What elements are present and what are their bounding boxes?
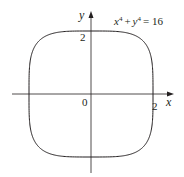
x-tick-label: 2 [152,100,158,112]
plot: y x 0 2 2 x4+y4= 16 [0,0,184,177]
equation-label: x4+y4= 16 [113,15,163,27]
origin-label: 0 [82,96,88,108]
y-tick-label: 2 [80,31,86,43]
y-axis-arrow-icon [89,11,94,18]
y-axis-label: y [78,8,85,22]
x-axis-label: x [165,95,172,109]
